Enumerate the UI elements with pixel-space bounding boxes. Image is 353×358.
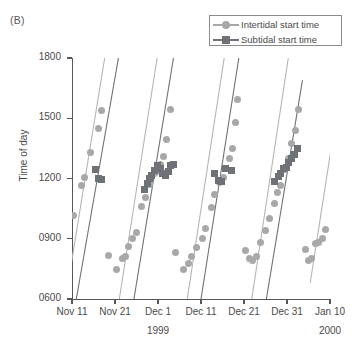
data-point-intertidal — [302, 246, 309, 253]
data-point-intertidal — [295, 106, 302, 113]
y-tick-label: 0900 — [27, 232, 61, 243]
data-point-intertidal — [163, 136, 170, 143]
data-point-intertidal — [292, 127, 299, 134]
chart-figure: (B) Intertidal start time Subtidal start… — [0, 0, 353, 358]
prediction-line — [310, 150, 330, 283]
x-tick — [114, 299, 115, 304]
data-point-intertidal — [322, 226, 329, 233]
y-tick-label: 1800 — [27, 51, 61, 62]
data-point-intertidal — [262, 227, 269, 234]
data-point-intertidal — [133, 229, 140, 236]
data-point-intertidal — [95, 125, 102, 132]
legend-label-intertidal: Intertidal start time — [241, 19, 319, 30]
y-tick-label: 1200 — [27, 172, 61, 183]
prediction-line — [266, 80, 302, 299]
plot-clip — [72, 58, 330, 299]
data-point-subtidal — [218, 178, 225, 185]
legend-item-intertidal: Intertidal start time — [213, 17, 341, 32]
y-tick-label: 0600 — [27, 292, 61, 303]
chart-legend: Intertidal start time Subtidal start tim… — [209, 15, 342, 46]
x-tick — [71, 299, 72, 304]
data-point-subtidal — [228, 167, 235, 174]
square-marker-icon — [213, 34, 239, 46]
x-tick — [286, 299, 287, 304]
plot-area — [72, 58, 330, 299]
data-point-intertidal — [232, 119, 239, 126]
panel-label: (B) — [10, 14, 25, 26]
x-tick — [157, 299, 158, 304]
data-point-intertidal — [160, 153, 167, 160]
data-point-intertidal — [319, 235, 326, 242]
data-point-intertidal — [172, 249, 179, 256]
legend-item-subtidal: Subtidal start time — [213, 32, 341, 47]
data-point-intertidal — [167, 106, 174, 113]
x-tick — [329, 299, 330, 304]
x-tick-label: Jan 10 — [300, 306, 353, 317]
data-point-subtidal — [92, 166, 99, 173]
y-tick-label: 1500 — [27, 111, 61, 122]
data-point-intertidal — [98, 107, 105, 114]
prediction-lines — [72, 58, 330, 299]
year-label: 2000 — [300, 325, 353, 336]
year-label: 1999 — [128, 325, 188, 336]
data-point-subtidal — [294, 145, 301, 152]
data-point-intertidal — [253, 253, 260, 260]
x-tick — [200, 299, 201, 304]
data-point-intertidal — [226, 155, 233, 162]
x-tick — [243, 299, 244, 304]
data-point-subtidal — [170, 161, 177, 168]
data-point-subtidal — [98, 176, 105, 183]
data-point-subtidal — [165, 168, 172, 175]
data-point-subtidal — [291, 151, 298, 158]
data-point-subtidal — [211, 170, 218, 177]
y-axis-label: Time of day — [18, 111, 29, 201]
legend-label-subtidal: Subtidal start time — [241, 34, 317, 45]
circle-marker-icon — [213, 19, 239, 31]
data-point-subtidal — [141, 186, 148, 193]
data-point-intertidal — [199, 235, 206, 242]
